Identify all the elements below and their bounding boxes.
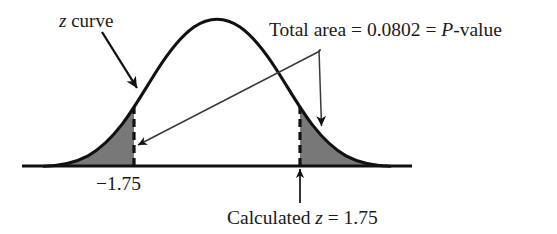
- total-area-prefix: Total area =: [269, 19, 367, 40]
- z-curve-label-rest: curve: [66, 10, 113, 31]
- z-curve-label: z curve: [59, 11, 113, 30]
- total-area-label: Total area = 0.0802 = P-value: [269, 20, 502, 40]
- total-area-value: 0.0802: [367, 19, 421, 40]
- normal-curve-path: [44, 19, 390, 166]
- calculated-z-middle: =: [323, 207, 344, 228]
- calculated-z-prefix: Calculated: [227, 207, 315, 228]
- z-curve-p-value-figure: z curve Total area = 0.0802 = P-value −1…: [0, 0, 557, 234]
- right-tail-shaded-region: [300, 109, 388, 166]
- left-tail-shaded-region: [46, 109, 134, 166]
- calculated-z-value: 1.75: [344, 207, 378, 228]
- total-area-suffix: -value: [453, 19, 502, 40]
- total-area-middle: =: [421, 19, 442, 40]
- calculated-z-label: Calculated z = 1.75: [227, 208, 378, 228]
- calculated-z-italic: z: [315, 207, 323, 228]
- total-area-p-italic: P: [441, 19, 453, 40]
- total-area-right-leader-arrow: [319, 50, 322, 126]
- z-curve-leader-arrow: [102, 32, 137, 88]
- left-critical-value-label: −1.75: [96, 174, 141, 194]
